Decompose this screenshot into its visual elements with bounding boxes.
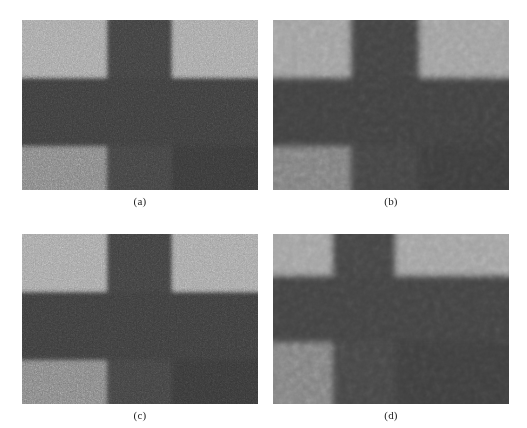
panel-b-caption: (b) (273, 195, 509, 207)
panel-c-region-vertical-bar-top (107, 234, 172, 292)
panel-c-region-vertical-bar-bottom (107, 360, 172, 404)
panel-c-region-bottom-right-dark (172, 360, 258, 404)
panel-c-region-top-right-background (172, 234, 258, 292)
panel-a-image (22, 20, 258, 190)
panel-d-region-vertical-bar-bottom (333, 342, 395, 404)
panel-c-scene (22, 234, 258, 404)
panel-c-region-top-left-background (22, 234, 107, 292)
panel-b-region-top-left-background (273, 20, 351, 78)
panel-d-region-bottom-left-midtone (273, 342, 333, 404)
panel-b-region-bottom-right-dark (419, 146, 509, 190)
panel-a-regions (22, 20, 258, 190)
panel-b-image (273, 20, 509, 190)
panel-d-scene (273, 234, 509, 404)
panel-d-region-vertical-bar-top (333, 234, 395, 276)
panel-b-region-vertical-bar-top (351, 20, 419, 78)
panel-c-region-bottom-left-midtone (22, 360, 107, 404)
panel-b-region-top-right-background (419, 20, 509, 78)
panel-a-region-vertical-bar-bottom (107, 146, 172, 190)
panel-d-region-top-right-background (395, 234, 509, 276)
panel-b-region-bottom-left-midtone (273, 146, 351, 190)
panel-b-regions (273, 20, 509, 190)
panel-d-region-top-left-background (273, 234, 333, 276)
panel-d-region-horizontal-bar (273, 276, 509, 342)
panel-d-image (273, 234, 509, 404)
panel-b-region-vertical-bar-bottom (351, 146, 419, 190)
panel-b-scene (273, 20, 509, 190)
panel-a-region-vertical-bar-top (107, 20, 172, 78)
panel-a-scene (22, 20, 258, 190)
panel-c-region-horizontal-bar (22, 292, 258, 360)
panel-d-caption: (d) (273, 409, 509, 421)
panel-c-caption: (c) (22, 409, 258, 421)
panel-d-regions (273, 234, 509, 404)
figure-container: (a) (b) (0, 0, 527, 428)
panel-b-region-horizontal-bar (273, 78, 509, 146)
panel-a-region-top-left-background (22, 20, 107, 78)
panel-a-region-bottom-left-midtone (22, 146, 107, 190)
panel-c-regions (22, 234, 258, 404)
figure-panel-a: (a) (22, 20, 258, 208)
panel-a-region-horizontal-bar (22, 78, 258, 146)
figure-panel-d: (d) (273, 234, 509, 422)
panel-a-caption: (a) (22, 195, 258, 207)
panel-a-region-bottom-right-dark (172, 146, 258, 190)
figure-panel-c: (c) (22, 234, 258, 422)
panel-c-image (22, 234, 258, 404)
figure-panel-b: (b) (273, 20, 509, 208)
panel-d-region-bottom-right-dark (395, 342, 509, 404)
panel-a-region-top-right-background (172, 20, 258, 78)
